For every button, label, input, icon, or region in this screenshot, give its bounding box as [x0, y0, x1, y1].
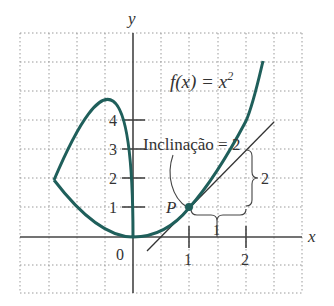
y-tick-label-2: 2 [109, 170, 117, 187]
function-label-base: f(x) = x [170, 71, 228, 93]
rise-label: 2 [261, 170, 269, 187]
y-tick-label-4: 4 [109, 112, 117, 129]
function-label-exponent: 2 [227, 69, 233, 83]
run-label: 1 [213, 223, 220, 238]
y-axis-label: y [126, 9, 136, 28]
point-p-label: P [165, 198, 176, 217]
chart-figure: y x 0 1 2 1 2 3 4 2 1 P f(x) = x2 Inclin… [0, 0, 334, 306]
x-axis-label: x [307, 227, 316, 246]
point-p [185, 203, 193, 211]
function-label: f(x) = x2 [170, 69, 233, 93]
run-brace [191, 209, 246, 221]
origin-label: 0 [116, 246, 124, 263]
y-tick-label-1: 1 [109, 199, 117, 216]
slope-label: Inclinação = 2 [143, 135, 240, 154]
x-tick-label-2: 2 [241, 251, 249, 268]
x-tick-label-1: 1 [184, 251, 192, 268]
y-tick-label-3: 3 [109, 141, 117, 158]
